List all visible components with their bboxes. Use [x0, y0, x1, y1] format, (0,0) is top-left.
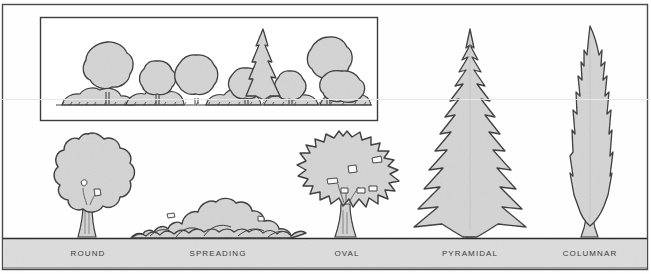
inset-round-tree-3: [175, 55, 218, 95]
specimen-label-round: ROUND: [71, 249, 106, 258]
oval-gap-5: [357, 188, 365, 193]
specimen-label-spreading: SPREADING: [189, 249, 246, 258]
oval-gap-2: [348, 165, 357, 173]
oval-gap-6: [369, 186, 377, 191]
round-canopy-gap-1: [81, 180, 87, 186]
oval-gap-1: [327, 178, 338, 184]
oval-gap-4: [341, 188, 348, 193]
figure-canvas: [0, 0, 651, 274]
massing-inset: [41, 18, 378, 121]
inset-round-tree-2: [140, 61, 176, 95]
spreading-gap-1: [167, 213, 175, 218]
tree-forms-figure: ROUND SPREADING OVAL PYRAMIDAL COLUMNAR: [0, 0, 651, 274]
specimen-label-pyramidal: PYRAMIDAL: [442, 249, 498, 258]
specimen-label-columnar: COLUMNAR: [563, 249, 618, 258]
specimen-label-oval: OVAL: [334, 249, 359, 258]
round-canopy-gap-2: [94, 189, 101, 196]
spreading-gap-2: [258, 216, 264, 221]
